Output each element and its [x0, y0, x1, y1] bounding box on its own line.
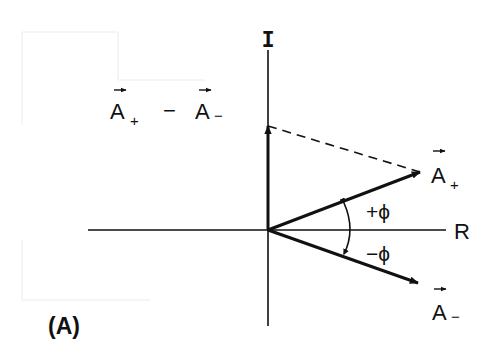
- plus-phi-label: +ϕ: [366, 200, 390, 223]
- bleed-through-background: [22, 32, 205, 300]
- real-axis-label: R: [454, 219, 470, 244]
- svg-text:−: −: [214, 107, 223, 124]
- svg-text:A: A: [195, 99, 210, 124]
- difference-label: A + − A −: [110, 90, 223, 129]
- a-plus-vector-arrow: [268, 172, 420, 230]
- panel-label: (A): [48, 313, 80, 339]
- svg-text:+: +: [130, 112, 139, 129]
- svg-text:A: A: [110, 99, 125, 124]
- a-minus-vector-arrow: [268, 230, 418, 283]
- svg-text:−: −: [451, 308, 460, 325]
- svg-text:−: −: [163, 98, 176, 123]
- dashed-connector: [268, 126, 420, 172]
- phasor-diagram: I R +ϕ −ϕ A + A − A + − A − (A): [0, 0, 496, 361]
- svg-text:A: A: [432, 300, 447, 325]
- svg-text:+: +: [450, 176, 459, 193]
- a-minus-label: A −: [432, 289, 460, 325]
- angle-arc: [344, 203, 350, 254]
- a-plus-label: A +: [431, 151, 459, 193]
- imaginary-axis-label: I: [261, 27, 274, 52]
- svg-text:A: A: [431, 163, 446, 188]
- minus-phi-label: −ϕ: [366, 242, 390, 265]
